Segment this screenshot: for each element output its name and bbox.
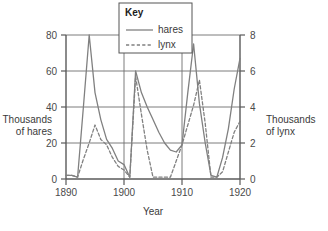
ytick-label-20: 20 (46, 138, 58, 149)
xtick-label-1920: 1920 (229, 187, 252, 198)
x-axis-title: Year (143, 206, 164, 217)
xtick-label-1910: 1910 (171, 187, 194, 198)
ytick-label-80: 80 (46, 30, 58, 41)
legend-label-lynx: lynx (158, 39, 176, 50)
xtick-label-1890: 1890 (55, 187, 78, 198)
left-axis-ticks: 80 60 40 20 0 (46, 30, 66, 185)
legend-label-hares: hares (158, 24, 183, 35)
chart-container: 80 60 40 20 0 8 6 4 2 0 1890 1900 (0, 0, 328, 231)
series-line-hares (66, 35, 240, 177)
y2tick-label-6: 6 (250, 66, 256, 77)
ytick-label-60: 60 (46, 66, 58, 77)
right-axis-title-line2: of lynx (266, 126, 295, 137)
xtick-label-1900: 1900 (113, 187, 136, 198)
ytick-label-40: 40 (46, 102, 58, 113)
data-series-group (66, 35, 240, 177)
y2tick-label-2: 2 (250, 138, 256, 149)
hares-lynx-line-chart: 80 60 40 20 0 8 6 4 2 0 1890 1900 (0, 0, 328, 231)
y2tick-label-4: 4 (250, 102, 256, 113)
x-axis-ticks: 1890 1900 1910 1920 (55, 179, 252, 198)
series-line-lynx (66, 76, 240, 177)
y2tick-label-0: 0 (250, 174, 256, 185)
ytick-label-0: 0 (51, 174, 57, 185)
axis-titles: Thousands of hares Thousands of lynx Yea… (3, 114, 316, 217)
legend-title: Key (125, 7, 144, 18)
legend: Key hares lynx (119, 3, 192, 53)
right-axis-title-line1: Thousands (266, 114, 315, 125)
y2tick-label-8: 8 (250, 30, 256, 41)
left-axis-title-line1: Thousands (3, 114, 52, 125)
left-axis-title-line2: of hares (16, 126, 52, 137)
right-axis-ticks: 8 6 4 2 0 (240, 30, 256, 185)
